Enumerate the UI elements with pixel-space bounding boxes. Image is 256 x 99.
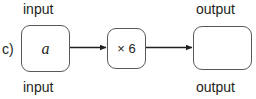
input-label-bottom: input — [23, 79, 53, 96]
input-box[interactable]: a — [21, 25, 70, 72]
function-machine-diagram: c) input input output output a × 6 — [0, 0, 256, 99]
operation-box[interactable]: × 6 — [107, 28, 146, 69]
output-label-bottom: output — [196, 79, 235, 96]
part-letter-label: c) — [2, 40, 14, 58]
input-label-top: input — [23, 1, 53, 18]
operation-box-value: × 6 — [117, 42, 135, 55]
input-box-value: a — [42, 41, 50, 57]
output-box[interactable] — [193, 26, 252, 70]
output-label-top: output — [196, 1, 235, 18]
